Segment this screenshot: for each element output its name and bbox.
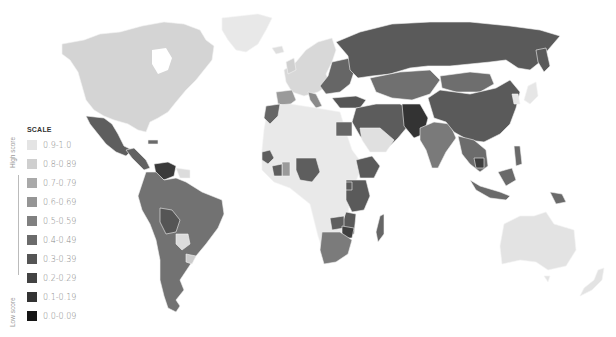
legend-label: 0.8-0.89 (43, 160, 76, 169)
legend-swatch (27, 235, 37, 245)
region-uruguay (186, 254, 196, 264)
region-italy (308, 92, 322, 108)
legend-label: 0.2-0.29 (43, 274, 76, 283)
legend-item: 0.2-0.29 (27, 273, 76, 283)
region-ghana (282, 162, 290, 176)
legend-item: 0.7-0.79 (27, 178, 76, 188)
region-central-america (126, 148, 150, 170)
legend-label: 0.7-0.79 (43, 179, 76, 188)
legend-swatch (27, 292, 37, 302)
region-mongolia (440, 72, 494, 92)
legend-label: 0.9-1.0 (43, 141, 71, 150)
legend-label: 0.0-0.09 (43, 312, 76, 321)
legend-label: 0.1-0.19 (43, 293, 76, 302)
legend-swatch (27, 159, 37, 169)
legend-swatch (27, 311, 37, 321)
legend-label: 0.3-0.39 (43, 255, 76, 264)
region-philippines (514, 146, 522, 166)
region-ethiopia (356, 156, 380, 178)
region-australia (500, 212, 576, 270)
legend-item: 0.8-0.89 (27, 159, 76, 169)
legend-item: 0.0-0.09 (27, 311, 76, 321)
legend-axis-line (18, 175, 19, 275)
legend: High score Low score SCALE 0.9-1.0 0.8-0… (0, 0, 110, 337)
region-russia (336, 22, 560, 78)
legend-swatch (27, 197, 37, 207)
region-southern-africa (320, 232, 352, 264)
legend-swatch (27, 178, 37, 188)
region-mali-guinea (272, 164, 282, 176)
legend-swatch (27, 216, 37, 226)
region-new-guinea (550, 192, 566, 204)
legend-label: 0.6-0.69 (43, 198, 76, 207)
legend-item: 0.6-0.69 (27, 197, 76, 207)
legend-swatch (27, 254, 37, 264)
legend-swatch (27, 140, 37, 150)
region-uganda (346, 182, 352, 190)
region-india (420, 122, 456, 168)
region-greenland (222, 14, 272, 52)
legend-swatch (27, 273, 37, 283)
region-iberia (276, 90, 296, 106)
region-madagascar (376, 214, 384, 242)
region-iceland (272, 46, 284, 54)
region-japan (524, 82, 538, 104)
region-guianas (176, 168, 190, 178)
region-tasmania (544, 276, 550, 282)
region-caribbean (148, 140, 158, 144)
legend-high-label: High score (9, 137, 16, 168)
legend-item: 0.5-0.59 (27, 216, 76, 226)
region-turkey (332, 96, 366, 108)
legend-item: 0.1-0.19 (27, 292, 76, 302)
legend-low-label: Low score (9, 297, 16, 327)
legend-label: 0.5-0.59 (43, 217, 76, 226)
legend-item: 0.4-0.49 (27, 235, 76, 245)
legend-item: 0.3-0.39 (27, 254, 76, 264)
region-kamchatka (536, 48, 550, 72)
region-egypt (336, 122, 352, 136)
region-borneo (498, 168, 516, 186)
legend-title: SCALE (27, 126, 52, 133)
region-cambodia (474, 158, 484, 168)
legend-item: 0.9-1.0 (27, 140, 71, 150)
region-new-zealand (580, 268, 604, 296)
legend-label: 0.4-0.49 (43, 236, 76, 245)
